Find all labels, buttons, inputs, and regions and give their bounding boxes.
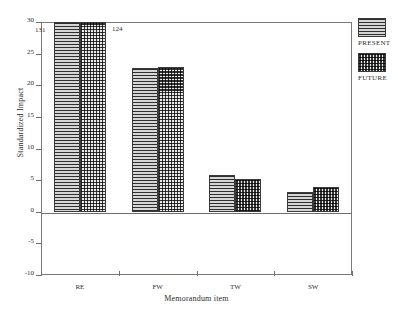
- legend-label-future: FUTURE: [358, 73, 408, 83]
- x-category-label: TW: [197, 283, 275, 292]
- bar-re-present: [54, 22, 80, 212]
- bar-sw-present: [287, 192, 313, 212]
- y-tick-label: 20: [27, 79, 34, 88]
- x-tick-mark: [197, 271, 198, 276]
- y-tick-mark: [36, 243, 41, 244]
- bar-fw-present: [132, 68, 158, 212]
- y-tick-label: 0: [31, 206, 35, 215]
- legend-label-present: PRESENT: [358, 38, 408, 48]
- chart-legend: PRESENT FUTURE: [358, 18, 408, 88]
- legend-swatch-future: [358, 53, 386, 72]
- y-tick-mark: [36, 180, 41, 181]
- x-axis-title: Memorandum item: [41, 294, 352, 303]
- y-tick-mark: [36, 149, 41, 150]
- y-tick-mark: [36, 54, 41, 55]
- x-category-label: RE: [41, 283, 119, 292]
- y-tick-mark: [36, 117, 41, 118]
- y-tick-label: -10: [25, 269, 34, 278]
- bar-tw-future: [235, 179, 261, 212]
- x-tick-mark: [119, 271, 120, 276]
- y-tick-mark: [36, 85, 41, 86]
- y-axis-title: Standardized Impact: [16, 63, 25, 183]
- bar-value-label-131: 131: [35, 26, 46, 34]
- bar-chart-figure: 302520151050-5-10 REFWTWSW 131124 Standa…: [0, 0, 411, 314]
- y-tick-label: 30: [27, 16, 34, 25]
- legend-swatch-present: [358, 18, 386, 37]
- x-category-label: SW: [274, 283, 352, 292]
- y-tick-label: -5: [28, 237, 34, 246]
- bar-tw-present: [209, 175, 235, 212]
- x-tick-mark: [41, 271, 42, 276]
- y-tick-mark: [36, 212, 41, 213]
- y-tick-label: 15: [27, 111, 34, 120]
- bar-sw-future: [313, 187, 339, 212]
- y-tick-label: 10: [27, 143, 34, 152]
- bar-re-future: [80, 22, 106, 212]
- x-tick-mark: [274, 271, 275, 276]
- x-tick-mark: [352, 271, 353, 276]
- y-tick: -10: [0, 275, 41, 276]
- y-tick: 25: [0, 54, 41, 55]
- y-tick: 0: [0, 212, 41, 213]
- bar-fw-future: [158, 67, 184, 212]
- bar-value-label-124: 124: [112, 25, 123, 33]
- y-tick-label: 25: [27, 48, 34, 57]
- x-category-label: FW: [119, 283, 197, 292]
- zero-baseline: [41, 213, 352, 214]
- y-tick-label: 5: [31, 174, 35, 183]
- y-tick-mark: [36, 22, 41, 23]
- y-tick: 30: [0, 22, 41, 23]
- y-tick: -5: [0, 243, 41, 244]
